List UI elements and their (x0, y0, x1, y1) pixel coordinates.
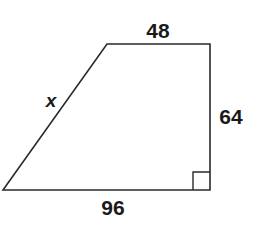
bottom-side-label: 96 (101, 196, 124, 219)
right-angle-marker (193, 172, 210, 190)
right-side-label: 64 (219, 105, 243, 128)
top-side-label: 48 (146, 19, 170, 42)
slant-side-label: x (45, 90, 58, 111)
trapezoid-shape (3, 44, 210, 190)
trapezoid-diagram: 48 64 96 x (0, 0, 255, 231)
